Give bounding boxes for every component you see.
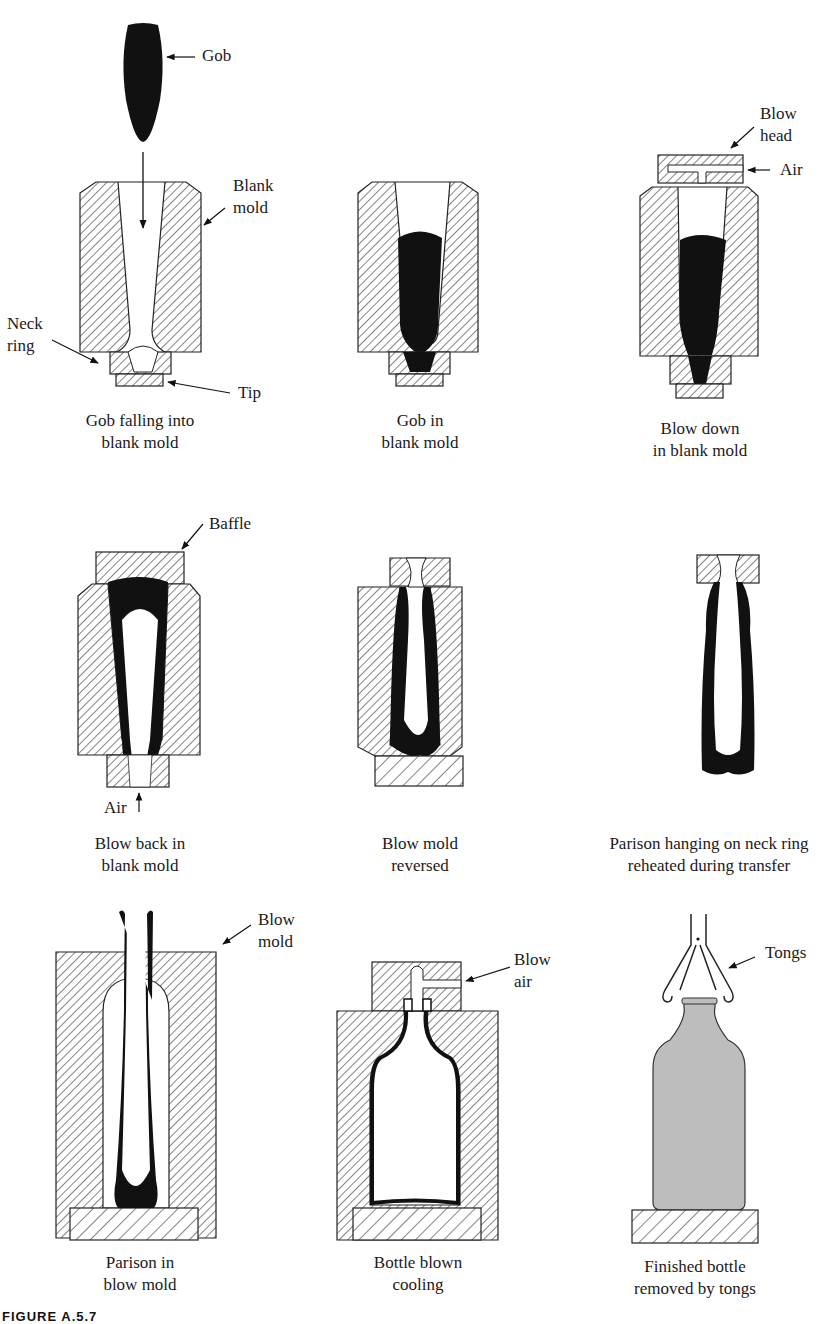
label-blow-mold-2: mold [258, 932, 293, 952]
label-air-back: Air [104, 798, 127, 818]
caption-line-1: Parison hanging on neck ring [590, 833, 828, 855]
caption-parison-hanging: Parison hanging on neck ring reheated du… [590, 833, 828, 877]
label-blank-mold-1: Blank [233, 176, 274, 196]
caption-line-2: reversed [310, 855, 530, 877]
panel-gob-in-mold [358, 182, 478, 386]
caption-line-1: Finished bottle [595, 1256, 795, 1278]
label-blank-mold-2: mold [233, 198, 268, 218]
caption-gob-in-mold: Gob in blank mold [320, 410, 520, 454]
caption-line-2: cooling [318, 1274, 518, 1296]
panel-blow-down [640, 127, 770, 398]
blow-mold-pointer [223, 925, 251, 944]
tip [396, 374, 443, 386]
label-neck-ring-1: Neck [7, 314, 43, 334]
finished-bottle [653, 1001, 745, 1210]
label-tongs: Tongs [765, 943, 806, 963]
label-air: Air [780, 160, 803, 180]
tongs [663, 914, 733, 1002]
glass-gob [398, 232, 442, 356]
label-blow-air-1: Blow [514, 950, 551, 970]
label-blow-head-2: head [760, 126, 792, 146]
tip-pointer [168, 382, 230, 393]
caption-gob-falling: Gob falling into blank mold [40, 410, 240, 454]
caption-blow-mold-reversed: Blow mold reversed [310, 833, 530, 877]
panel-bottle-blown [337, 962, 510, 1240]
caption-line-1: Gob in [320, 410, 520, 432]
tip [676, 384, 723, 398]
caption-line-2: blank mold [40, 432, 240, 454]
panel-blow-mold-reversed [358, 558, 463, 786]
baffle-pointer [182, 524, 203, 549]
caption-bottle-blown: Bottle blown cooling [318, 1252, 518, 1296]
caption-line-1: Parison in [40, 1252, 240, 1274]
caption-line-1: Blow mold [310, 833, 530, 855]
blow-head-pointer [731, 127, 754, 148]
caption-finished-bottle: Finished bottle removed by tongs [595, 1256, 795, 1300]
label-baffle: Baffle [209, 514, 251, 534]
caption-line-1: Gob falling into [40, 410, 240, 432]
label-blow-head-1: Blow [760, 104, 797, 124]
caption-line-2: in blank mold [600, 440, 800, 462]
caption-line-1: Bottle blown [318, 1252, 518, 1274]
caption-line-2: reheated during transfer [590, 855, 828, 877]
label-blow-air-2: air [514, 972, 532, 992]
label-tip: Tip [238, 383, 261, 403]
panel-parison-in-blow-mold [56, 910, 251, 1240]
blank-mold-pointer [204, 208, 225, 225]
label-neck-ring-2: ring [7, 336, 34, 356]
caption-line-2: removed by tongs [595, 1278, 795, 1300]
panel-finished-bottle [632, 914, 758, 1243]
caption-blow-back: Blow back in blank mold [40, 833, 240, 877]
caption-line-1: Blow down [600, 418, 800, 440]
caption-line-2: blank mold [40, 855, 240, 877]
blow-mold [337, 1011, 498, 1240]
panel-parison-hanging [697, 555, 759, 775]
blank-mold [80, 182, 201, 352]
label-blow-mold-1: Blow [258, 910, 295, 930]
caption-line-2: blow mold [40, 1274, 240, 1296]
process-diagram [0, 0, 828, 1324]
base-plate [632, 1210, 758, 1243]
panel-gob-falling [52, 23, 230, 393]
label-gob: Gob [202, 46, 231, 66]
gob-shape [123, 23, 162, 142]
tip [116, 374, 163, 386]
caption-line-1: Blow back in [40, 833, 240, 855]
figure-caption-label: FIGURE A.5.7 [2, 1309, 97, 1324]
tongs-pointer [729, 957, 755, 968]
caption-line-2: blank mold [320, 432, 520, 454]
bottom-plate [70, 1208, 198, 1240]
blow-air-pointer [466, 967, 510, 981]
mold-bottom [375, 756, 463, 786]
caption-parison-in-blow-mold: Parison in blow mold [40, 1252, 240, 1296]
bottom-plate [353, 1208, 481, 1240]
caption-blow-down: Blow down in blank mold [600, 418, 800, 462]
panel-blow-back [78, 524, 203, 812]
